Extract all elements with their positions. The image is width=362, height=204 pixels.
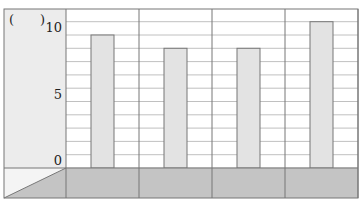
bar [91, 35, 114, 168]
y-tick-label: 10 [45, 20, 62, 35]
bar [310, 22, 333, 168]
y-axis-panel [4, 9, 66, 198]
unit-label: ( ) [9, 12, 45, 27]
y-tick-label: 5 [54, 87, 62, 102]
bar [164, 48, 187, 168]
bar-chart: ( )0510 [0, 0, 362, 204]
y-tick-label: 0 [54, 153, 62, 168]
bar [237, 48, 260, 168]
